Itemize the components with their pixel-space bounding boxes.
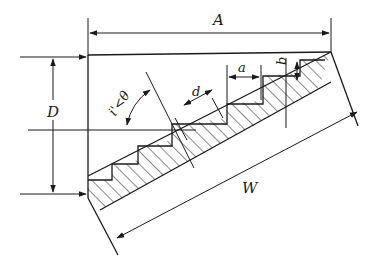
slope-top-line xyxy=(88,52,331,176)
slope-bottom-line xyxy=(100,82,331,210)
label-A: A xyxy=(211,11,224,29)
dimension-a: a xyxy=(227,60,261,104)
label-b: b xyxy=(274,57,289,65)
angle-annotation: i'<θ xyxy=(105,88,150,125)
dimension-A: A xyxy=(88,11,331,56)
label-D: D xyxy=(46,103,59,121)
label-angle: i'<θ xyxy=(105,88,133,118)
top-edge xyxy=(88,52,331,55)
angle-arc xyxy=(127,90,150,125)
label-a: a xyxy=(238,60,246,75)
stepped-slope-diagram: A D i'<θ d a b xyxy=(0,0,381,267)
dimension-D: D xyxy=(20,57,86,194)
label-W: W xyxy=(242,179,259,197)
label-d: d xyxy=(192,84,200,99)
right-end-line xyxy=(331,52,358,126)
